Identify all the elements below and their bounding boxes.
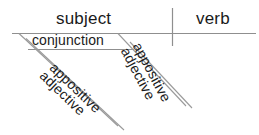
label-subject: subject <box>56 10 111 27</box>
label-conjunction: conjunction <box>32 33 104 47</box>
sentence-diagram: subject verb conjunction appositive adje… <box>0 0 259 135</box>
label-verb: verb <box>196 10 230 27</box>
